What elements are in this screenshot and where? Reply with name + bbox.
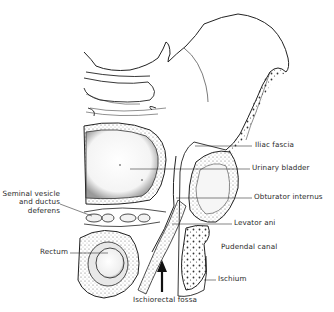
peritoneal-folds bbox=[84, 72, 166, 116]
label-seminal-vesicle: Seminal vesicle and ductus deferens bbox=[0, 190, 60, 215]
obturator-internus bbox=[189, 151, 238, 222]
label-urinary-bladder: Urinary bladder bbox=[252, 164, 310, 172]
label-ischium: Ischium bbox=[218, 275, 247, 283]
label-rectum: Rectum bbox=[30, 248, 68, 256]
urinary-bladder bbox=[84, 123, 166, 205]
label-pudendal-canal: Pudendal canal bbox=[221, 243, 277, 251]
label-ischiorectal-fossa: Ischiorectal fossa bbox=[120, 296, 210, 304]
rectum bbox=[78, 230, 139, 298]
label-seminal-vesicle-line3: deferens bbox=[0, 207, 60, 215]
label-levator-ani: Levator ani bbox=[234, 219, 275, 227]
label-obturator-internus: Obturator internus bbox=[254, 193, 323, 201]
seminal-vesicles bbox=[84, 208, 166, 227]
anatomical-illustration bbox=[0, 0, 334, 312]
label-iliac-fascia: Iliac fascia bbox=[255, 141, 294, 149]
